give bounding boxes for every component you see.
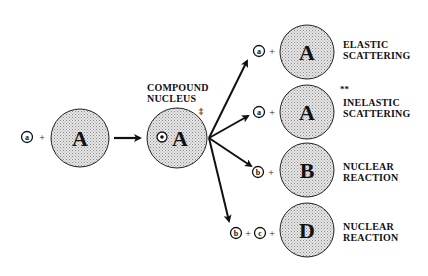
- compound-label-line2: NUCLEUS: [147, 93, 196, 104]
- captured-projectile-particle: [157, 132, 167, 142]
- excited-state-mark: **: [340, 84, 350, 94]
- outcome-label-line2: REACTION: [343, 232, 399, 243]
- outcome-nucleus-label: B: [300, 158, 315, 183]
- projectile-label: a: [25, 133, 29, 142]
- outcome-nucleus-label: A: [299, 100, 315, 125]
- outcome-label-line2: REACTION: [343, 172, 399, 183]
- outcome-particle: b: [234, 229, 239, 238]
- outcome-particle: a: [257, 47, 261, 56]
- outcome-label-line1: ELASTIC: [343, 39, 388, 50]
- compound-nucleus-label: A: [172, 126, 188, 151]
- outcome-label-line2: SCATTERING: [343, 108, 410, 119]
- compound-nucleus-diagram: a + A COMPOUND NUCLEUS A ‡ a + A ELASTIC: [0, 0, 428, 276]
- projectile-a-particle: a: [22, 132, 33, 143]
- outcome-nucleus-label: A: [299, 40, 315, 65]
- outcome-particle: b: [256, 168, 261, 177]
- plus-sign: +: [269, 107, 275, 118]
- target-nucleus-label: A: [72, 126, 88, 151]
- outcome-label-line2: SCATTERING: [343, 50, 410, 61]
- compound-nucleus: COMPOUND NUCLEUS A ‡: [147, 82, 209, 168]
- plus-sign: +: [39, 132, 45, 143]
- outcome-label-line1: NUCLEAR: [343, 221, 394, 232]
- plus-sign: +: [269, 46, 275, 57]
- outcome-inelastic-scattering: a + A ** INELASTIC SCATTERING: [254, 84, 411, 139]
- outcome-label-line1: INELASTIC: [343, 97, 400, 108]
- outcome-nuclear-reaction-b: b + B NUCLEAR REACTION: [253, 143, 400, 197]
- initial-state: a + A: [22, 109, 110, 167]
- plus-sign: +: [269, 228, 275, 239]
- outcome-label-line1: NUCLEAR: [343, 161, 394, 172]
- plus-sign: +: [245, 228, 251, 239]
- outcome-particle: c: [258, 229, 262, 238]
- outcome-nuclear-reaction-d: b + c + D NUCLEAR REACTION: [231, 203, 400, 257]
- outcome-particle: a: [257, 108, 261, 117]
- plus-sign: +: [268, 167, 274, 178]
- compound-label-line1: COMPOUND: [147, 82, 209, 93]
- outcome-nucleus-label: D: [299, 218, 315, 243]
- target-nucleus-a: A: [51, 109, 109, 167]
- outcome-elastic-scattering: a + A ELASTIC SCATTERING: [254, 25, 411, 79]
- excited-state-mark: ‡: [199, 106, 204, 116]
- decay-arrows: [209, 61, 251, 221]
